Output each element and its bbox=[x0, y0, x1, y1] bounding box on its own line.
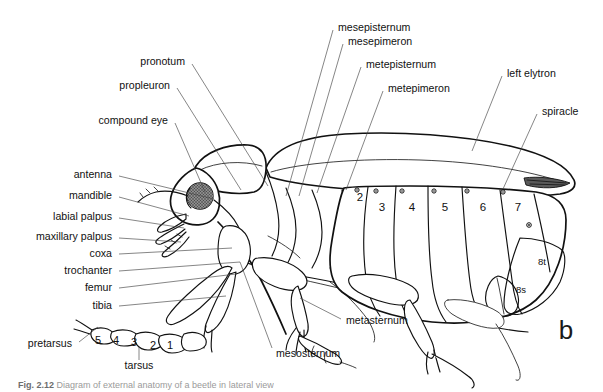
label-metasternum: metasternum bbox=[346, 314, 408, 326]
label-maxillary-palpus: maxillary palpus bbox=[36, 230, 112, 242]
label-mandible: mandible bbox=[69, 189, 112, 201]
segment-number-6: 6 bbox=[480, 201, 486, 213]
label-tibia: tibia bbox=[93, 299, 113, 311]
beetle-anatomy-diagram: pronotum propleuron compound eye antenna… bbox=[0, 0, 603, 392]
label-mesepisternum: mesepisternum bbox=[338, 21, 411, 33]
tarsal-number-2: 2 bbox=[150, 339, 156, 351]
tarsal-number-4: 4 bbox=[113, 334, 119, 346]
figure-caption: Fig. 2.12 Diagram of external anatomy of… bbox=[18, 379, 274, 391]
tarsomere-1 bbox=[182, 332, 207, 351]
label-mesosternum: mesosternum bbox=[276, 347, 340, 359]
figure-caption-number: Fig. 2.12 bbox=[18, 380, 54, 390]
label-mesepimeron: mesepimeron bbox=[348, 35, 412, 47]
label-coxa: coxa bbox=[90, 247, 112, 259]
label-trochanter: trochanter bbox=[64, 264, 112, 276]
tarsal-number-1: 1 bbox=[167, 339, 173, 351]
label-antenna: antenna bbox=[74, 168, 112, 180]
label-labial-palpus: labial palpus bbox=[53, 210, 112, 222]
label-spiracle: spiracle bbox=[542, 105, 579, 117]
label-tarsus: tarsus bbox=[125, 359, 154, 371]
figure-caption-text: Diagram of external anatomy of a beetle … bbox=[57, 380, 274, 390]
segment-number-8s: 8s bbox=[516, 284, 526, 295]
label-pronotum: pronotum bbox=[140, 55, 185, 67]
label-propleuron: propleuron bbox=[119, 79, 170, 91]
label-left-elytron: left elytron bbox=[507, 67, 556, 79]
label-pretarsus: pretarsus bbox=[28, 337, 72, 349]
compound-eye-stipple bbox=[187, 183, 213, 209]
tarsal-number-5: 5 bbox=[95, 334, 101, 346]
label-femur: femur bbox=[85, 281, 113, 293]
label-metepimeron: metepimeron bbox=[388, 82, 450, 94]
segment-number-3: 3 bbox=[379, 201, 385, 213]
segment-number-5: 5 bbox=[442, 201, 448, 213]
segment-number-2: 2 bbox=[357, 191, 363, 203]
segment-number-7: 7 bbox=[515, 201, 521, 213]
label-compound-eye: compound eye bbox=[99, 114, 169, 126]
segment-number-8t: 8t bbox=[538, 256, 546, 267]
figure-panel: pronotum propleuron compound eye antenna… bbox=[0, 0, 603, 392]
tarsal-number-3: 3 bbox=[131, 336, 137, 348]
label-metepisternum: metepisternum bbox=[366, 58, 436, 70]
segment-number-4: 4 bbox=[409, 201, 416, 213]
panel-label-b: b bbox=[559, 315, 573, 345]
